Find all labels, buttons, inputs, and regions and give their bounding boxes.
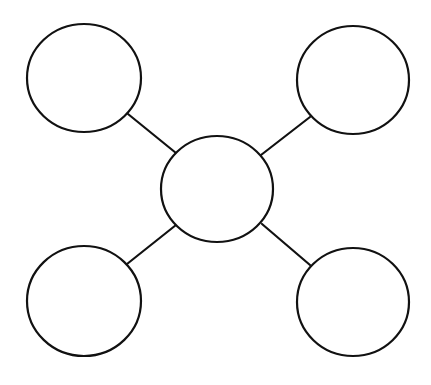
- bubble-top-left: [27, 24, 141, 132]
- bubble-group: [27, 24, 409, 356]
- bubble-center: [161, 136, 273, 242]
- bubble-bottom-right: [297, 248, 409, 356]
- bubble-shape-bottom-left: [27, 246, 141, 356]
- bubble-map-canvas: [0, 0, 431, 385]
- connector-bottom-right-to-center: [262, 224, 310, 265]
- connector-top-left-to-center: [128, 114, 176, 153]
- bubble-shape-center: [161, 136, 273, 242]
- bubble-shape-bottom-right: [297, 248, 409, 356]
- connector-top-right-to-center: [261, 117, 310, 155]
- bubble-shape-top-right: [297, 26, 409, 134]
- connector-bottom-left-to-center: [127, 225, 176, 264]
- bubble-top-right: [297, 26, 409, 134]
- bubble-bottom-left: [27, 246, 141, 356]
- bubble-map-diagram: [0, 0, 431, 385]
- bubble-shape-top-left: [27, 24, 141, 132]
